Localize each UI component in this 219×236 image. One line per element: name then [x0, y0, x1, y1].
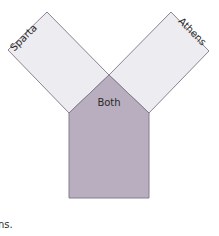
both-label: Both — [97, 97, 120, 108]
caption-text-fragment: ns. — [0, 219, 13, 230]
y-chart-diagram: Sparta Athens Both — [0, 0, 219, 236]
